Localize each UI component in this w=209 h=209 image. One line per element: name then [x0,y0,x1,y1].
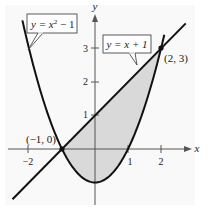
intersection-point-b [158,45,163,50]
x-axis-label: x [194,142,200,154]
point-label-a: (−1, 0) [26,133,56,146]
parabola-equation-base: y = x [30,18,54,30]
x-tick-label-1: 1 [128,156,133,167]
y-axis-label: y [92,0,98,12]
x-tick-label-2: 2 [159,156,164,167]
y-tick-label-2: 2 [83,76,88,87]
svg-text:y = x2 − 1: y = x2 − 1 [30,18,74,30]
graph: −2 1 2 1 2 3 x y (−1, 0) (2, 3) y = x2 −… [0,0,209,209]
y-tick-label-1: 1 [83,109,88,120]
x-tick-label-neg2: −2 [23,156,34,167]
parabola-equation-tail: − 1 [57,18,74,30]
y-tick-label-3: 3 [83,43,88,54]
intersection-point-a [59,146,64,151]
point-label-b: (2, 3) [164,52,188,65]
line-equation: y = x + 1 [105,38,147,50]
